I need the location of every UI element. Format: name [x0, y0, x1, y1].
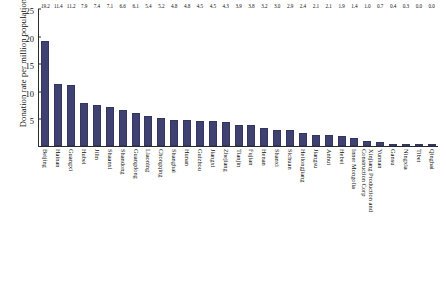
x-label-column: Zhejiang: [219, 149, 232, 299]
bar-column[interactable]: 4.3: [219, 9, 232, 146]
bar[interactable]: 1.0: [363, 141, 371, 146]
bar[interactable]: 1.4: [350, 138, 358, 146]
x-axis-category-label: Tibet: [415, 149, 422, 162]
x-label-column: Anhui: [322, 149, 335, 299]
x-label-column: Henan: [258, 149, 271, 299]
bar-column[interactable]: 5.4: [142, 9, 155, 146]
bar-value-label: 0.0: [416, 3, 422, 9]
bar[interactable]: 11.4: [54, 84, 62, 146]
x-axis-category-label: Beijing: [42, 149, 49, 168]
bar[interactable]: 6.1: [132, 113, 140, 146]
x-label-column: Guangdong: [129, 149, 142, 299]
bar[interactable]: 6.6: [119, 110, 127, 146]
bar-value-label: 2.9: [287, 3, 293, 9]
bar-column[interactable]: 0.4: [387, 9, 400, 146]
bar[interactable]: 3.2: [260, 128, 268, 146]
x-label-column: Tianjin: [232, 149, 245, 299]
bar-value-label: 7.1: [107, 3, 113, 9]
bar[interactable]: 2.1: [325, 135, 333, 147]
bar[interactable]: 0.7: [376, 142, 384, 146]
bar-value-label: 3.2: [261, 3, 267, 9]
y-tick-label-text: 20: [26, 34, 35, 44]
x-axis-category-label: Shanghai: [171, 149, 178, 173]
bar-column[interactable]: 3.9: [232, 9, 245, 146]
bar[interactable]: 4.8: [170, 120, 178, 146]
bar-column[interactable]: 5.2: [155, 9, 168, 146]
bar[interactable]: 3.9: [235, 125, 243, 146]
bar[interactable]: 11.2: [67, 85, 75, 146]
x-label-column: Yunnan: [374, 149, 387, 299]
bar[interactable]: 1.9: [338, 136, 346, 146]
bar[interactable]: 3.8: [247, 125, 255, 146]
bar-column[interactable]: 19.2: [39, 9, 52, 146]
bar-column[interactable]: 7.9: [78, 9, 91, 146]
bar[interactable]: 3.0: [273, 130, 281, 146]
bar-column[interactable]: 2.9: [284, 9, 297, 146]
x-label-column: Shanghai: [168, 149, 181, 299]
bar-value-label: 0.4: [390, 3, 396, 9]
bar-column[interactable]: 3.0: [271, 9, 284, 146]
x-label-column: Beijing: [39, 149, 52, 299]
x-axis-category-label: Yunnan: [377, 149, 384, 169]
x-axis-category-label: Guangxi: [68, 149, 75, 171]
y-tick-label: 5: [30, 110, 38, 128]
bar-column[interactable]: 0.3: [400, 9, 413, 146]
bar-column[interactable]: 7.1: [103, 9, 116, 146]
x-label-column: Hubei: [78, 149, 91, 299]
bar-value-label: 0.7: [377, 3, 383, 9]
bar[interactable]: 7.9: [80, 103, 88, 146]
bar-value-label: 11.4: [54, 3, 63, 9]
plot-area: 510152025 19.211.411.27.97.47.16.66.15.4…: [38, 9, 438, 147]
bar[interactable]: 7.1: [106, 107, 114, 146]
bar-column[interactable]: 2.4: [297, 9, 310, 146]
x-label-column: Gansu: [387, 149, 400, 299]
bar-column[interactable]: 3.2: [258, 9, 271, 146]
x-label-column: Shanxi: [271, 149, 284, 299]
bar-column[interactable]: 4.5: [206, 9, 219, 146]
bar[interactable]: 0.3: [402, 144, 410, 146]
bar[interactable]: 5.4: [144, 116, 152, 146]
bar[interactable]: 0.4: [389, 144, 397, 146]
bar-column[interactable]: 1.9: [335, 9, 348, 146]
bar[interactable]: 2.4: [299, 133, 307, 146]
bar-chart: Donation rate per million population 510…: [0, 0, 446, 308]
x-label-column: Liaoning: [142, 149, 155, 299]
bar-value-label: 1.0: [364, 3, 370, 9]
bar-value-label: 4.8: [171, 3, 177, 9]
x-label-column: Inner Mongolia: [348, 149, 361, 299]
bar-column[interactable]: 3.8: [245, 9, 258, 146]
bar-column[interactable]: 7.4: [91, 9, 104, 146]
bar[interactable]: 5.2: [157, 118, 165, 146]
bar-value-label: 11.2: [67, 3, 76, 9]
bar[interactable]: 0.0: [428, 144, 436, 146]
bar[interactable]: 2.1: [312, 135, 320, 147]
bar-column[interactable]: 2.1: [322, 9, 335, 146]
bar[interactable]: 19.2: [41, 41, 49, 146]
bar-column[interactable]: 0.7: [374, 9, 387, 146]
bar-column[interactable]: 0.0: [412, 9, 425, 146]
bar[interactable]: 7.4: [93, 105, 101, 146]
x-label-column: Ningxia: [400, 149, 413, 299]
bar-column[interactable]: 11.4: [52, 9, 65, 146]
bar-column[interactable]: 11.2: [65, 9, 78, 146]
bar-column[interactable]: 1.0: [361, 9, 374, 146]
x-label-column: Guizhou: [194, 149, 207, 299]
bar-column[interactable]: 0.0: [425, 9, 438, 146]
bar-column[interactable]: 4.8: [181, 9, 194, 146]
bar-value-label: 5.4: [145, 3, 151, 9]
bar-column[interactable]: 4.5: [194, 9, 207, 146]
bar-value-label: 0.3: [403, 3, 409, 9]
bar-column[interactable]: 6.6: [116, 9, 129, 146]
y-tick-label: 10: [26, 83, 39, 101]
bar[interactable]: 4.3: [222, 122, 230, 146]
bar-column[interactable]: 6.1: [129, 9, 142, 146]
bar[interactable]: 4.8: [183, 120, 191, 146]
bar[interactable]: 0.0: [415, 144, 423, 146]
bar[interactable]: 4.5: [209, 121, 217, 146]
bar[interactable]: 2.9: [286, 130, 294, 146]
bar-column[interactable]: 2.1: [309, 9, 322, 146]
bar-column[interactable]: 1.4: [348, 9, 361, 146]
bar[interactable]: 4.5: [196, 121, 204, 146]
x-axis-category-label: Shaanxi: [106, 149, 113, 170]
bar-column[interactable]: 4.8: [168, 9, 181, 146]
